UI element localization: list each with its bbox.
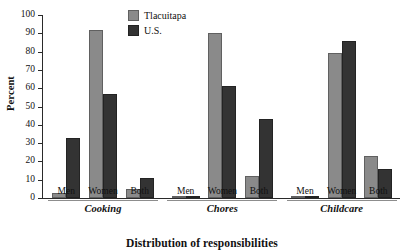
bar-chores-men-tlacuitapa[interactable] bbox=[172, 196, 186, 198]
group-label-cooking: Cooking bbox=[85, 203, 122, 214]
plot-area: 0102030405060708090100 bbox=[42, 15, 400, 198]
category-label-chores-women: Women bbox=[208, 186, 237, 196]
legend-swatch-us bbox=[128, 25, 139, 36]
bar-childcare-men-us[interactable] bbox=[305, 196, 319, 198]
y-tick-label: 80 bbox=[26, 47, 36, 57]
category-label-childcare-both: Both bbox=[369, 186, 387, 196]
group-label-childcare: Childcare bbox=[320, 203, 363, 214]
group-label-chores: Chores bbox=[207, 203, 238, 214]
y-axis-label: Percent bbox=[5, 62, 16, 126]
y-tick-mark bbox=[38, 198, 43, 199]
bar-chores-women-us[interactable] bbox=[222, 86, 236, 198]
y-tick-label: 50 bbox=[26, 102, 36, 112]
group-rule-cooking bbox=[48, 200, 158, 201]
bar-childcare-men-tlacuitapa[interactable] bbox=[291, 196, 305, 198]
y-tick-label: 100 bbox=[21, 10, 35, 20]
y-tick-label: 30 bbox=[26, 138, 36, 148]
bar-childcare-women-us[interactable] bbox=[342, 41, 356, 198]
bar-cooking-women-tlacuitapa[interactable] bbox=[89, 30, 103, 198]
y-tick-label: 10 bbox=[26, 175, 36, 185]
y-tick-label: 40 bbox=[26, 120, 36, 130]
group-rule-childcare bbox=[287, 200, 397, 201]
y-tick-label: 60 bbox=[26, 83, 36, 93]
legend-swatch-tlacuitapa bbox=[128, 10, 139, 21]
category-label-cooking-women: Women bbox=[88, 186, 117, 196]
category-label-chores-men: Men bbox=[177, 186, 194, 196]
legend: Tlacuitapa U.S. bbox=[128, 10, 186, 40]
legend-item-us[interactable]: U.S. bbox=[128, 25, 186, 36]
bar-chart: Percent 0102030405060708090100 MenWomenB… bbox=[0, 0, 404, 252]
category-label-chores-both: Both bbox=[250, 186, 268, 196]
legend-label-us: U.S. bbox=[144, 26, 162, 36]
category-label-cooking-men: Men bbox=[58, 186, 75, 196]
bar-cooking-women-us[interactable] bbox=[103, 94, 117, 198]
chart-caption: Distribution of responsibilities bbox=[0, 237, 404, 249]
category-label-cooking-both: Both bbox=[130, 186, 148, 196]
category-label-childcare-women: Women bbox=[327, 186, 356, 196]
legend-item-tlacuitapa[interactable]: Tlacuitapa bbox=[128, 10, 186, 21]
category-label-childcare-men: Men bbox=[296, 186, 313, 196]
y-tick-label: 70 bbox=[26, 65, 36, 75]
bars-layer bbox=[42, 15, 400, 198]
bar-chores-women-tlacuitapa[interactable] bbox=[208, 33, 222, 198]
legend-label-tlacuitapa: Tlacuitapa bbox=[144, 11, 186, 21]
bar-childcare-women-tlacuitapa[interactable] bbox=[328, 53, 342, 198]
y-tick-label: 90 bbox=[26, 29, 36, 39]
y-tick-label: 0 bbox=[30, 193, 35, 203]
y-tick-label: 20 bbox=[26, 157, 36, 167]
bar-chores-men-us[interactable] bbox=[186, 196, 200, 198]
group-rule-chores bbox=[167, 200, 277, 201]
